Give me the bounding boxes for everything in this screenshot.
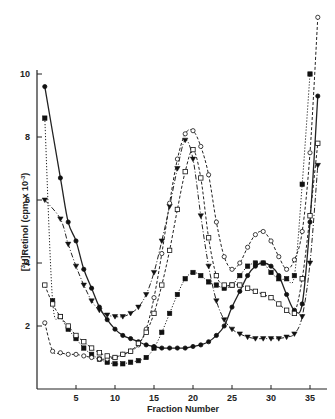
filled-square-marker: [300, 182, 304, 186]
open-square-marker: [269, 295, 273, 299]
open-circle-marker: [261, 229, 265, 233]
filled-circle-marker: [308, 220, 312, 224]
filled-circle-marker: [43, 85, 47, 89]
open-circle-marker: [269, 239, 273, 243]
filled-circle-marker: [113, 327, 117, 331]
filled-square-marker: [277, 277, 281, 281]
open-square-marker: [167, 248, 171, 252]
filled-square-marker: [253, 261, 257, 265]
filled-triangle-marker: [144, 293, 149, 298]
filled-circle-marker: [90, 286, 94, 290]
open-circle-marker: [152, 296, 156, 300]
open-square-marker: [253, 289, 257, 293]
svg-text:[3H]Retinol (cpm x 10-3): [3H]Retinol (cpm x 10-3): [20, 173, 30, 272]
filled-circle-marker: [105, 318, 109, 322]
filled-square-marker: [152, 346, 156, 350]
x-axis-title: Fraction Number: [147, 404, 220, 414]
filled-circle-marker: [168, 346, 172, 350]
filled-triangle-marker: [214, 299, 219, 304]
filled-triangle-marker: [198, 214, 203, 219]
open-square-marker: [50, 302, 54, 306]
open-circle-marker: [66, 352, 70, 356]
open-square-marker: [113, 355, 117, 359]
series-line: [45, 140, 318, 339]
series-layer: [42, 15, 320, 366]
series-line: [45, 87, 318, 349]
open-circle-marker: [214, 220, 218, 224]
filled-square-marker: [308, 72, 312, 76]
open-square-marker: [206, 236, 210, 240]
open-square-marker: [284, 308, 288, 312]
open-square-marker: [175, 207, 179, 211]
open-circle-marker: [230, 267, 234, 271]
filled-circle-marker: [246, 274, 250, 278]
filled-triangle-marker: [136, 305, 141, 310]
x-tick-label: 15: [149, 393, 159, 403]
open-circle-marker: [277, 255, 281, 259]
open-square-marker: [238, 283, 242, 287]
filled-circle-marker: [74, 239, 78, 243]
filled-triangle-marker: [237, 332, 242, 337]
filled-circle-marker: [183, 346, 187, 350]
filled-triangle-marker: [300, 315, 305, 320]
open-square-marker: [316, 141, 320, 145]
x-tick-label: 30: [266, 393, 276, 403]
open-circle-marker: [253, 233, 257, 237]
filled-square-marker: [82, 346, 86, 350]
open-square-marker: [97, 351, 101, 355]
y-tick-label: 8: [25, 132, 30, 142]
x-tick-label: 35: [305, 393, 315, 403]
filled-circle-marker: [160, 346, 164, 350]
open-circle-marker: [183, 132, 187, 136]
open-square-marker: [74, 333, 78, 337]
filled-triangle-marker: [66, 242, 71, 247]
filled-circle-marker: [144, 343, 148, 347]
filled-square-marker: [144, 355, 148, 359]
filled-circle-marker: [199, 343, 203, 347]
filled-circle-marker: [121, 333, 125, 337]
open-square-marker: [261, 292, 265, 296]
open-square-marker: [308, 214, 312, 218]
open-square-marker: [214, 273, 218, 277]
filled-square-marker: [206, 280, 210, 284]
filled-circle-marker: [175, 346, 179, 350]
filled-square-marker: [43, 116, 47, 120]
open-square-marker: [277, 302, 281, 306]
open-circle-marker: [168, 201, 172, 205]
series-open-square: [43, 141, 320, 360]
open-circle-marker: [51, 349, 55, 353]
open-square-marker: [105, 354, 109, 358]
filled-circle-marker: [82, 267, 86, 271]
filled-circle-marker: [207, 340, 211, 344]
open-square-marker: [191, 147, 195, 151]
series-line: [45, 143, 318, 357]
open-square-marker: [245, 286, 249, 290]
filled-triangle-marker: [89, 299, 94, 304]
open-circle-marker: [82, 354, 86, 358]
open-circle-marker: [207, 173, 211, 177]
open-circle-marker: [300, 229, 304, 233]
open-circle-marker: [160, 251, 164, 255]
open-square-marker: [160, 283, 164, 287]
filled-circle-marker: [238, 289, 242, 293]
y-tick-label: 2: [25, 321, 30, 331]
filled-square-marker: [238, 273, 242, 277]
open-square-marker: [230, 283, 234, 287]
filled-triangle-marker: [284, 335, 289, 340]
open-circle-marker: [97, 357, 101, 361]
filled-circle-marker: [230, 305, 234, 309]
filled-circle-marker: [316, 94, 320, 98]
filled-triangle-marker: [58, 217, 63, 222]
filled-triangle-marker: [307, 261, 312, 266]
open-circle-marker: [316, 15, 320, 19]
open-circle-marker: [246, 245, 250, 249]
y-axis-title: [3H]Retinol (cpm x 10-3): [20, 173, 30, 272]
filled-circle-marker: [222, 324, 226, 328]
open-square-marker: [300, 277, 304, 281]
open-circle-marker: [292, 258, 296, 262]
filled-circle-marker: [129, 337, 133, 341]
open-circle-marker: [74, 352, 78, 356]
filled-square-marker: [128, 360, 132, 364]
chart: 2468105101520253035 Fraction Number [3H]…: [0, 0, 335, 419]
open-circle-marker: [222, 255, 226, 259]
